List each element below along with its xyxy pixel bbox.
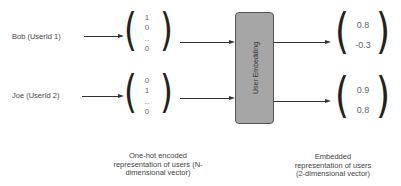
caption-one-hot: One-hot encoded representation of users … <box>98 152 218 178</box>
arrow-embedding-to-bob-vector <box>274 42 326 43</box>
left-paren-icon: ( <box>335 71 349 119</box>
left-paren-icon: ( <box>124 8 137 52</box>
user-label-joe: Joe (UserId 2) <box>12 91 60 100</box>
vector-cell: 0 <box>140 24 154 32</box>
right-paren-icon: ) <box>376 7 390 55</box>
arrow-head-icon <box>325 99 331 103</box>
arrow-head-icon <box>325 40 331 44</box>
vector-cell: 0 <box>140 108 154 116</box>
arrow-bob-to-vector <box>84 36 120 37</box>
vector-cell: .. <box>140 35 154 43</box>
user-embedding-label: User Embedding <box>251 42 258 94</box>
arrow-joe-to-embedding <box>180 98 230 99</box>
vector-cell: 0.9 <box>352 86 374 95</box>
caption-line: (2-dimensional vector) <box>278 170 388 179</box>
arrow-joe-to-vector <box>82 96 120 97</box>
left-paren-icon: ( <box>335 7 349 55</box>
right-paren-icon: ) <box>160 8 173 52</box>
right-paren-icon: ) <box>376 71 390 119</box>
vector-cell: 0.8 <box>352 106 374 115</box>
caption-embedded: Embedded representation of users (2-dime… <box>278 153 388 179</box>
arrow-embedding-to-joe-vector <box>274 101 326 102</box>
vector-cell: 0 <box>140 45 154 53</box>
vector-cell: 1 <box>140 87 154 95</box>
arrow-bob-to-embedding <box>180 42 230 43</box>
vector-cell: .. <box>140 98 154 106</box>
vector-cell: -0.3 <box>352 41 374 50</box>
vector-cell: 1 <box>140 14 154 22</box>
right-paren-icon: ) <box>160 70 173 114</box>
vector-cell: 0 <box>140 77 154 85</box>
caption-line: dimensional vector) <box>98 169 218 178</box>
vector-cell: 0.8 <box>352 21 374 30</box>
user-embedding-layer: User Embedding <box>235 12 274 124</box>
user-label-bob: Bob (UserId 1) <box>12 32 61 41</box>
left-paren-icon: ( <box>124 70 137 114</box>
